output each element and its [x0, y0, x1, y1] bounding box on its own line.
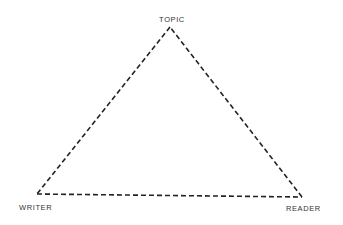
edge-writer-reader	[37, 194, 302, 197]
rhetorical-triangle-diagram: TOPIC WRITER READER	[0, 0, 343, 225]
edge-reader-topic	[170, 27, 302, 197]
node-label-reader: READER	[286, 204, 321, 213]
node-label-writer: WRITER	[19, 203, 52, 212]
edge-topic-writer	[37, 27, 170, 194]
node-label-topic: TOPIC	[159, 15, 185, 24]
